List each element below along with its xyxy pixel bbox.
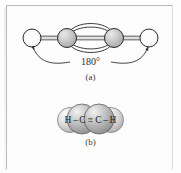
formula-c-right: C [95, 115, 101, 125]
formula-h-right: H [110, 115, 117, 125]
angle-label: 180° [81, 56, 100, 67]
formula-dash-right: – [102, 115, 108, 125]
formula-c-left: C [79, 115, 85, 125]
formula-triple-bond: ≡ [88, 115, 93, 125]
bond-c-h-right [122, 36, 141, 40]
atom-hydrogen-right [140, 29, 158, 47]
formula-overlay: H – C ≡ C – H [65, 115, 117, 125]
atom-hydrogen-left [23, 29, 41, 47]
formula-dash-left: – [72, 115, 78, 125]
formula-h-left: H [65, 115, 72, 125]
bond-h-c-left [40, 36, 59, 40]
figure-container: 180° (a) H – C [0, 0, 181, 173]
panel-b-diagram: H – C ≡ C – H [0, 100, 181, 160]
caption-panel-b: (b) [0, 137, 181, 147]
atom-carbon-left [58, 29, 77, 48]
atom-carbon-right [105, 29, 124, 48]
bond-angle-annotation: 180° [33, 47, 148, 67]
caption-panel-a: (a) [0, 72, 181, 82]
